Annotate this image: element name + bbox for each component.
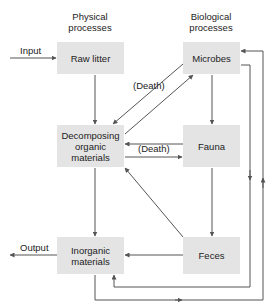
node-microbes: Microbes [183, 42, 240, 74]
node-fauna-label: Fauna [198, 141, 225, 152]
node-fauna: Fauna [183, 125, 240, 167]
node-microbes-label: Microbes [192, 53, 231, 64]
node-decomposing-organic-materials: Decomposing organic materials [57, 125, 124, 167]
node-decomposing-label: Decomposing organic materials [61, 130, 121, 163]
node-raw-litter-label: Raw litter [71, 53, 111, 64]
input-label: Input [20, 45, 41, 56]
node-inorganic-materials: Inorganic materials [57, 237, 124, 274]
death-label-fauna: (Death) [138, 143, 170, 154]
node-feces-label: Feces [199, 250, 225, 261]
output-label: Output [20, 242, 49, 253]
death-label-microbes: (Death) [133, 80, 165, 91]
node-inorganic-label: Inorganic materials [63, 245, 118, 267]
node-feces: Feces [183, 237, 240, 274]
node-raw-litter: Raw litter [57, 42, 124, 74]
